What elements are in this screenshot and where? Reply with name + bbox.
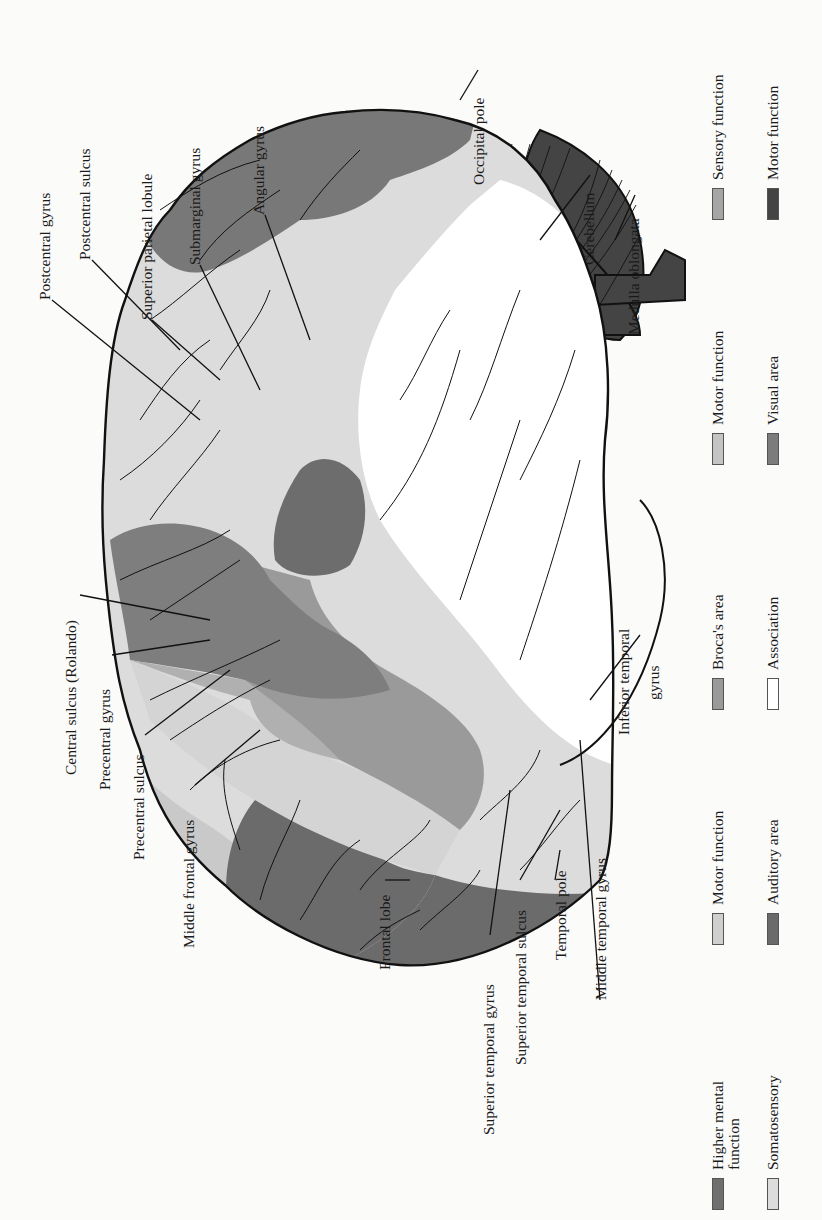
legend-item-auditory-area: Auditory area [765,819,781,945]
legend-item-motor-function-1: Motor function [710,811,726,945]
swatch-association [767,678,779,710]
legend-item-brocas-area: Broca's area [710,594,726,710]
swatch-broca [712,678,724,710]
swatch-motor-dark [767,188,779,220]
legend-item-sensory-function: Sensory function [710,75,726,220]
swatch-auditory [767,913,779,945]
legend-item-somatosensory: Somatosensory [765,1075,781,1210]
swatch-motor-mid [712,433,724,465]
legend-item-motor-function-3: Motor function [765,86,781,220]
legend-item-motor-function-2: Motor function [710,331,726,465]
swatch-somatosensory [767,1178,779,1210]
legend-item-higher-mental-function: Higher mental function [710,1060,743,1210]
brain-diagram-figure: Postcentral gyrus Postcentral sulcus Sup… [0,0,822,1220]
legend-item-association: Association [765,597,781,710]
legend-item-visual-area: Visual area [765,356,781,465]
swatch-visual [767,433,779,465]
legend: Higher mental function Somatosensory Mot… [0,0,822,1220]
swatch-motor-light [712,913,724,945]
swatch-sensory [712,188,724,220]
swatch-higher-mental [712,1178,724,1210]
